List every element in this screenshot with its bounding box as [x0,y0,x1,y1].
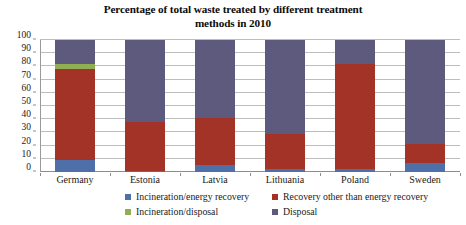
y-tick-mark-40 [33,118,36,119]
y-tick-mark-60 [33,91,36,92]
chart-title-line-1: Percentage of total waste treated by dif… [0,2,466,16]
y-tick-mark-100 [33,39,36,40]
plot-frame [40,40,460,172]
x-tick-mark-3 [250,173,251,176]
chart-title-line-2: methods in 2010 [0,16,466,30]
y-tick-mark-20 [33,144,36,145]
x-tick-label-poland: Poland [341,174,369,186]
y-tick-label-10: 10 [22,149,32,159]
y-tick-label-100: 100 [17,30,31,40]
x-axis: GermanyEstoniaLatviaLithuaniaPolandSwede… [40,173,460,189]
y-tick-label-90: 90 [22,43,32,53]
y-tick-label-0: 0 [26,162,31,172]
x-tick-label-latvia: Latvia [202,174,228,186]
x-tick-label-lithuania: Lithuania [266,174,304,186]
y-tick-label-40: 40 [22,109,32,119]
x-tick-mark-0 [40,173,41,176]
y-tick-label-60: 60 [22,83,32,93]
legend-item-1[interactable]: Recovery other than energy recovery [272,191,428,203]
y-tick-label-70: 70 [22,70,32,80]
x-tick-mark-6 [460,173,461,176]
y-axis: 0102030405060708090100 [0,40,36,172]
y-tick-mark-70 [33,78,36,79]
legend-label: Recovery other than energy recovery [283,191,428,203]
legend-label: Disposal [283,206,317,218]
x-tick-label-estonia: Estonia [130,174,160,186]
x-tick-label-germany: Germany [56,174,93,186]
legend-swatch-icon [125,209,131,215]
y-tick-mark-50 [33,105,36,106]
x-tick-mark-1 [110,173,111,176]
y-tick-label-80: 80 [22,56,32,66]
y-tick-mark-10 [33,157,36,158]
y-tick-label-20: 20 [22,136,32,146]
chart-container: Percentage of total waste treated by dif… [0,0,466,225]
y-tick-mark-80 [33,65,36,66]
legend-swatch-icon [125,194,131,200]
x-tick-mark-5 [390,173,391,176]
x-tick-mark-4 [320,173,321,176]
x-tick-mark-2 [180,173,181,176]
y-tick-mark-90 [33,52,36,53]
legend-item-3[interactable]: Disposal [272,206,317,218]
y-tick-mark-0 [33,171,36,172]
plot-area [40,40,460,172]
legend-item-2[interactable]: Incineration/disposal [125,206,218,218]
chart-legend: Incineration/energy recoveryRecovery oth… [0,191,466,225]
legend-swatch-icon [272,209,278,215]
legend-swatch-icon [272,194,278,200]
legend-label: Incineration/disposal [136,206,218,218]
chart-title: Percentage of total waste treated by dif… [0,2,466,30]
y-tick-label-50: 50 [22,96,32,106]
y-tick-mark-30 [33,131,36,132]
y-tick-label-30: 30 [22,122,32,132]
x-tick-label-sweden: Sweden [409,174,441,186]
legend-label: Incineration/energy recovery [136,191,249,203]
legend-item-0[interactable]: Incineration/energy recovery [125,191,249,203]
